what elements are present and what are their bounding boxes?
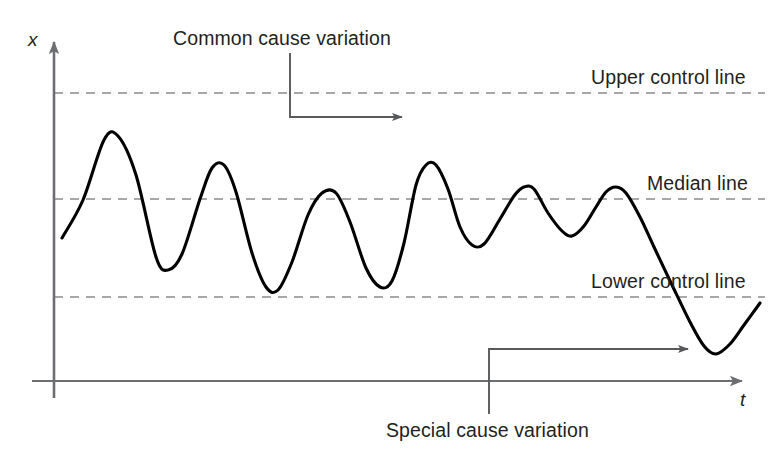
x-axis-label: t [740, 390, 745, 409]
lower-control-line-label: Lower control line [591, 272, 746, 292]
upper-control-line-label: Upper control line [591, 68, 746, 88]
special-cause-annotation: Special cause variation [386, 421, 589, 441]
common-cause-leader [290, 53, 402, 117]
control-chart-figure: x t Common cause variation Special cause… [0, 0, 777, 463]
y-axis-label: x [28, 30, 38, 49]
median-line-label: Median line [647, 174, 748, 194]
common-cause-annotation: Common cause variation [173, 29, 391, 49]
process-measurement-curve [62, 132, 760, 354]
axes [32, 42, 742, 398]
